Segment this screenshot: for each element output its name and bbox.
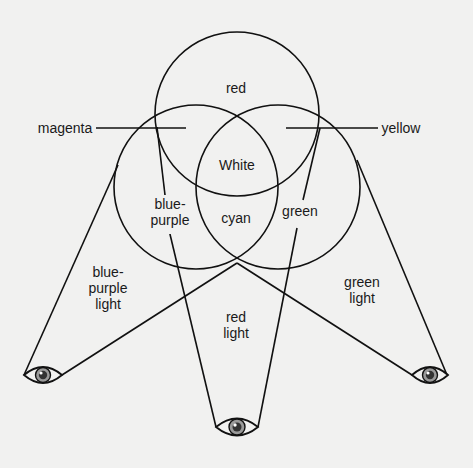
green-pointer-line [303, 128, 320, 200]
cyan-label: cyan [221, 210, 251, 226]
green-light-line1: green [344, 274, 380, 290]
green-label: green [282, 203, 318, 219]
blue-purple-light-line3: light [95, 296, 121, 312]
right-eye-inner-line [237, 263, 412, 375]
red-label: red [226, 80, 246, 96]
bottom-eye-icon [216, 419, 258, 436]
blue-purple-light-line2: purple [89, 280, 128, 296]
white-label: White [219, 157, 255, 173]
blue-purple-light-line1: blue- [92, 264, 123, 280]
blue-purple-label-line1: blue- [154, 196, 185, 212]
diagram-canvas: red White blue- purple cyan green magent… [0, 0, 473, 468]
color-mixing-diagram: red White blue- purple cyan green magent… [0, 0, 473, 468]
magenta-label: magenta [38, 120, 93, 136]
red-light-line2: light [223, 325, 249, 341]
yellow-label: yellow [382, 120, 422, 136]
right-eye-outer-line [357, 160, 447, 375]
bottom-eye-left-line [169, 230, 216, 427]
left-eye-icon [24, 367, 62, 383]
blue-purple-pointer-line [157, 127, 165, 195]
red-light-line1: red [226, 309, 246, 325]
green-light-line2: light [349, 290, 375, 306]
bottom-eye-right-line [258, 228, 297, 427]
right-eye-icon [412, 367, 448, 383]
blue-purple-label-line2: purple [151, 212, 190, 228]
